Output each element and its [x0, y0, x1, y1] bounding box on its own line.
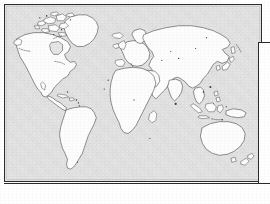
- world-coastlines: [5, 5, 261, 181]
- region-canadian-arctic-10: [59, 33, 67, 37]
- map-speck-5: [149, 138, 150, 139]
- region-kuril-islands: [236, 45, 241, 53]
- region-halmahera: [226, 106, 227, 107]
- region-arctic-islet-5: [70, 19, 71, 20]
- region-bahamas: [67, 91, 68, 92]
- region-canadian-arctic-6: [51, 12, 59, 16]
- region-arctic-islet-2: [61, 29, 62, 30]
- region-timor: [222, 119, 224, 121]
- region-hispaniola: [69, 98, 74, 101]
- region-sumatra: [191, 104, 203, 113]
- region-canadian-arctic-3: [49, 25, 60, 32]
- map-speck-8: [170, 51, 171, 52]
- region-japan-2: [229, 56, 234, 62]
- region-lesser-antilles-1: [78, 102, 79, 103]
- region-arctic-islet-3: [39, 17, 40, 18]
- region-canadian-arctic-8: [42, 29, 50, 33]
- region-canadian-arctic-1: [44, 17, 56, 24]
- bottom-overlay-panel: [3, 183, 270, 204]
- bottom-overlay-panel-label: [4, 184, 5, 185]
- region-canary-islands: [107, 79, 108, 80]
- region-sulawesi: [217, 105, 223, 113]
- region-asia: [143, 26, 230, 99]
- sheet-left-margin: [0, 0, 4, 204]
- region-australia: [200, 122, 245, 156]
- region-hainan: [203, 91, 205, 93]
- region-philippines-1: [214, 91, 218, 96]
- region-canadian-arctic-2: [57, 14, 67, 21]
- right-overlay-panel-label: [259, 43, 260, 44]
- sheet-top-margin: [0, 0, 270, 4]
- region-southeast-asia: [194, 87, 205, 104]
- right-overlay-panel: [258, 42, 270, 204]
- map-speck-4: [133, 99, 134, 100]
- region-philippines-2: [216, 97, 220, 102]
- region-lesser-sunda: [211, 119, 221, 120]
- map-speck-6: [77, 162, 78, 163]
- region-canadian-arctic-9: [35, 26, 40, 29]
- region-korea: [216, 65, 220, 70]
- region-south-america: [60, 107, 97, 169]
- map-speck-7: [206, 37, 207, 38]
- region-tasmania: [231, 157, 236, 162]
- region-canadian-arctic-7: [67, 13, 75, 17]
- region-taiwan: [209, 86, 211, 88]
- region-north-america: [16, 33, 77, 97]
- region-new-zealand-south: [241, 158, 249, 165]
- region-arctic-islet-1: [46, 15, 48, 17]
- region-cuba: [58, 94, 69, 98]
- region-central-america: [48, 96, 67, 111]
- region-alaska-tip: [14, 39, 22, 46]
- region-sri-lanka: [175, 103, 177, 105]
- region-iberia: [115, 59, 125, 66]
- map-speck-1: [178, 58, 179, 59]
- region-madagascar: [149, 111, 157, 123]
- region-greenland: [64, 15, 99, 47]
- region-new-guinea: [226, 109, 246, 118]
- region-java: [198, 116, 209, 119]
- region-puerto-rico: [76, 99, 78, 101]
- region-lesser-antilles-2: [79, 105, 80, 106]
- region-cape-verde: [104, 88, 105, 89]
- region-new-zealand-north: [248, 153, 254, 159]
- region-india: [168, 79, 183, 101]
- region-japan-1: [222, 62, 230, 70]
- region-borneo: [205, 103, 216, 112]
- document-page: [0, 0, 270, 204]
- region-iceland: [112, 33, 123, 39]
- region-africa: [110, 67, 156, 133]
- world-map-figure: [4, 4, 262, 182]
- map-speck-2: [195, 48, 196, 49]
- region-sakhalin: [231, 47, 235, 54]
- region-ireland: [113, 44, 119, 49]
- map-speck-3: [161, 60, 162, 61]
